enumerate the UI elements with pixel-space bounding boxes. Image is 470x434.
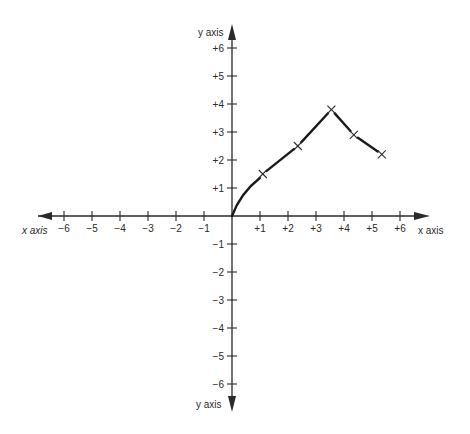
x-tick-label: −5 xyxy=(86,223,98,234)
x-tick-label: +4 xyxy=(338,223,350,234)
curve-segment xyxy=(358,138,378,152)
x-tick-label: +1 xyxy=(254,223,266,234)
y-axis-bottom-arrow-icon xyxy=(228,396,236,412)
x-marker-icon xyxy=(294,142,302,150)
y-tick-label: +3 xyxy=(213,127,225,138)
y-axis-title-bottom: y axis xyxy=(196,399,222,410)
x-tick-label: −3 xyxy=(142,223,154,234)
y-tick-label: −1 xyxy=(213,239,225,250)
x-tick-label: +3 xyxy=(310,223,322,234)
x-marker-icon xyxy=(350,131,358,139)
y-tick-label: +1 xyxy=(213,183,225,194)
curve-segment xyxy=(232,178,260,216)
y-tick-label: −6 xyxy=(213,379,225,390)
x-tick-label: −4 xyxy=(114,223,126,234)
x-marker-icon xyxy=(327,106,335,114)
x-axis-title-right: x axis xyxy=(418,225,444,236)
y-tick-label: +2 xyxy=(213,155,225,166)
data-series-curve xyxy=(232,106,386,216)
x-marker-icon xyxy=(259,170,267,178)
y-tick-label: +5 xyxy=(213,71,225,82)
y-tick-label: −3 xyxy=(213,295,225,306)
x-tick-label: +2 xyxy=(282,223,294,234)
curve-segment xyxy=(335,113,351,131)
y-tick-label: +4 xyxy=(213,99,225,110)
y-tick-label: −4 xyxy=(213,323,225,334)
x-axis-left-arrow-icon xyxy=(38,212,52,220)
y-axis-top-arrow-icon xyxy=(228,24,236,40)
curve-segment xyxy=(301,113,328,142)
x-tick-label: +5 xyxy=(366,223,378,234)
cartesian-plot: −6−5−4−3−2−1+1+2+3+4+5+6 +6+5+4+3+2+1−1−… xyxy=(0,0,470,434)
x-tick-label: −6 xyxy=(58,223,70,234)
y-tick-label: −2 xyxy=(213,267,225,278)
x-tick-label: −1 xyxy=(198,223,210,234)
x-marker-icon xyxy=(378,150,386,158)
x-axis-right-arrow-icon xyxy=(414,212,430,220)
y-tick-label: −5 xyxy=(213,351,225,362)
x-axis-title-left: x axis xyxy=(21,225,48,236)
curve-segment xyxy=(267,149,294,171)
x-tick-label: −2 xyxy=(170,223,182,234)
y-tick-label: +6 xyxy=(213,43,225,54)
x-tick-label: +6 xyxy=(394,223,406,234)
y-axis-title-top: y axis xyxy=(198,27,224,38)
